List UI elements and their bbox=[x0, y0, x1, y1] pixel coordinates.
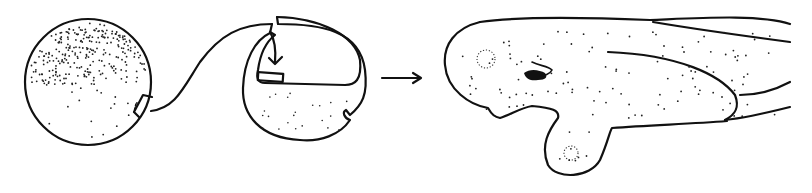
larva bbox=[445, 18, 790, 176]
donor-embryo bbox=[25, 19, 152, 145]
transplant-diagram bbox=[0, 0, 812, 193]
host-embryo bbox=[243, 17, 366, 140]
pigment-spot bbox=[524, 62, 552, 80]
right-arrow-icon bbox=[382, 73, 421, 83]
transfer-line bbox=[151, 24, 272, 111]
